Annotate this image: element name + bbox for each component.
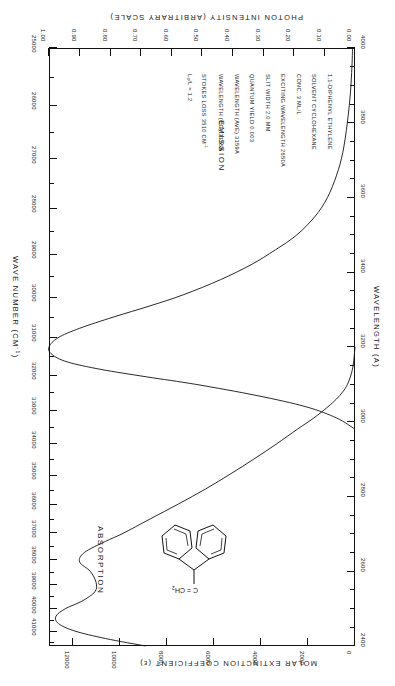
stokes-loss-exponent: -1 [204, 144, 209, 148]
annotation-text: STOKES LOSS 3510 CM [201, 74, 207, 144]
annotation-line: CONC. 3 ML/L [296, 74, 302, 115]
annotation-line: SLIT WIDTH 2.0 MM [265, 74, 271, 132]
annotation-line: L₀/L = 1.2 [188, 74, 194, 102]
annotation-line: 1,1-DIPHENYL ETHYLENE [327, 74, 333, 150]
spectrum-figure: 240026002800300032003400360038004000 250… [0, 0, 395, 686]
annotation-line: WAVELENGTH (CG) 3175A [219, 74, 225, 151]
annotation-line: EXCITING WAVELENGTH 2650A [281, 74, 287, 167]
molecule-center-label: C = CH2 [172, 585, 198, 595]
figure-page: 240026002800300032003400360038004000 250… [0, 0, 395, 686]
annotation-line: STOKES LOSS 3510 CM-1 [201, 74, 209, 148]
annotation-line: SOLVENT CYCLOHEXANE [312, 74, 318, 150]
annotation-line: WAVELENGTH (AVE) 3159A [234, 74, 240, 154]
absorption-label: ABSORPTION [96, 526, 105, 594]
molecule-structure: C = CH2 [135, 496, 245, 606]
annotation-line: QUANTUM YIELD 0.003 [250, 74, 256, 142]
